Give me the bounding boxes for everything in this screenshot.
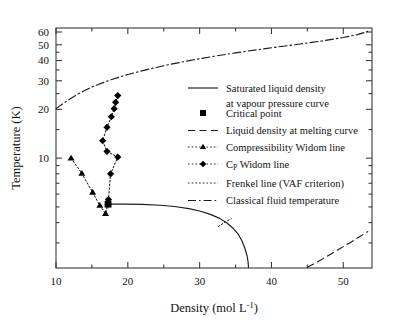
series-line <box>307 232 367 268</box>
legend-label: Frenkel line (VAF criterion) <box>226 178 344 190</box>
y-tick-label: 20 <box>38 103 50 115</box>
y-tick-label: 10 <box>38 152 50 164</box>
y-tick-label: 60 <box>38 26 50 38</box>
x-tick-label: 40 <box>266 275 278 287</box>
marker-diamond <box>108 113 115 120</box>
legend: Saturated liquid densityat vapour pressu… <box>188 83 358 207</box>
legend-item-0[interactable]: Saturated liquid densityat vapour pressu… <box>188 83 329 110</box>
legend-label: Liquid density at melting curve <box>226 125 358 136</box>
marker-triangle <box>68 155 75 161</box>
marker-diamond <box>103 148 110 155</box>
y-axis-title: Temperature (K) <box>9 106 23 189</box>
y-tick-label: 30 <box>38 75 50 87</box>
marker-diamond <box>103 124 110 131</box>
phase-diagram-figure: 1020304050102030405060Temperature (K)Den… <box>0 0 395 324</box>
legend-label: CP Widom line <box>226 159 289 173</box>
x-axis-title: Density (mol L-1) <box>170 300 258 316</box>
legend-label: Saturated liquid density <box>226 83 326 94</box>
legend-label: Classical fluid temperature <box>226 195 339 206</box>
marker-triangle <box>102 210 109 216</box>
x-tick-label: 30 <box>194 275 206 287</box>
legend-item-1[interactable]: Critical point <box>200 108 282 119</box>
series-4 <box>99 92 121 208</box>
marker-diamond <box>200 161 207 168</box>
series-2 <box>307 232 367 268</box>
marker-diamond <box>112 99 119 106</box>
x-tick-label: 20 <box>122 275 134 287</box>
legend-item-4[interactable]: CP Widom line <box>188 159 289 173</box>
series-0 <box>108 204 248 267</box>
marker-square <box>200 110 206 116</box>
series-line <box>108 204 248 267</box>
marker-triangle <box>200 144 206 149</box>
y-tick-label: 40 <box>38 54 50 66</box>
x-axis: 1020304050 <box>51 28 350 287</box>
chart-canvas: 1020304050102030405060Temperature (K)Den… <box>0 0 395 324</box>
legend-label: Compressibility Widom line <box>226 142 345 153</box>
x-tick-label: 10 <box>51 275 63 287</box>
series-line <box>71 158 108 213</box>
y-tick-label: 50 <box>38 39 50 51</box>
legend-item-3[interactable]: Compressibility Widom line <box>188 142 345 153</box>
marker-diamond <box>114 92 121 99</box>
marker-diamond <box>114 153 121 160</box>
legend-item-6[interactable]: Classical fluid temperature <box>188 195 339 206</box>
x-tick-label: 50 <box>338 275 350 287</box>
marker-diamond <box>107 170 114 177</box>
legend-item-2[interactable]: Liquid density at melting curve <box>188 125 358 136</box>
marker-diamond <box>111 105 118 112</box>
marker-diamond <box>99 137 106 144</box>
series-6 <box>56 31 368 108</box>
series-line <box>56 31 368 108</box>
marker-triangle <box>78 170 85 176</box>
legend-label: Critical point <box>226 108 282 119</box>
marker-triangle <box>96 202 103 208</box>
marker-triangle <box>89 189 96 195</box>
legend-item-5[interactable]: Frenkel line (VAF criterion) <box>188 178 344 190</box>
